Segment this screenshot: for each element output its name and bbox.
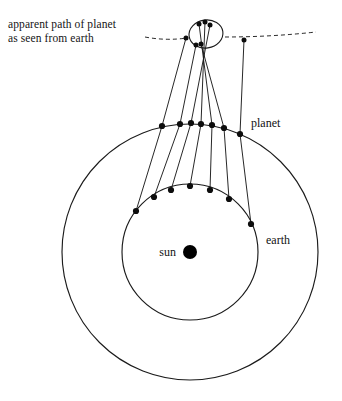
planet-position-marker-1 <box>159 123 165 129</box>
earth-position-marker-1 <box>133 208 139 214</box>
earth-position-marker-2 <box>151 194 157 200</box>
apparent-position-marker-3 <box>208 23 213 28</box>
apparent-position-marker-5 <box>197 22 202 27</box>
sun-label: sun <box>159 245 176 259</box>
apparent-position-marker-1 <box>184 36 189 41</box>
apparent-path-dashed-left <box>145 37 187 39</box>
planet-position-marker-5 <box>209 122 215 128</box>
earth-position-marker-6 <box>226 196 232 202</box>
planet-position-marker-7 <box>237 131 243 137</box>
apparent-position-marker-2 <box>194 43 199 48</box>
earth-position-marker-5 <box>207 187 213 193</box>
earth-position-marker-4 <box>187 183 193 189</box>
planet-position-marker-2 <box>177 121 183 127</box>
apparent-path-dashed-right <box>225 32 316 37</box>
apparent-position-marker-7 <box>242 38 247 43</box>
earth-position-marker-3 <box>168 187 174 193</box>
planet-position-marker-3 <box>188 120 194 126</box>
apparent-position-marker-4 <box>203 20 208 25</box>
planet-position-marker-6 <box>221 125 227 131</box>
planet-label: planet <box>251 116 281 130</box>
retrograde-motion-diagram: apparent path of planet as seen from ear… <box>0 0 342 401</box>
planet-position-marker-4 <box>198 121 204 127</box>
sightline-6 <box>201 44 229 199</box>
sun-body <box>183 245 197 259</box>
earth-position-marker-7 <box>248 221 254 227</box>
apparent-path-group <box>145 18 316 50</box>
earth-position-markers <box>133 183 254 227</box>
diagram-canvas: planet earth sun <box>0 0 342 401</box>
earth-label: earth <box>266 233 290 247</box>
planet-position-markers <box>159 120 243 137</box>
apparent-position-marker-6 <box>199 42 204 47</box>
